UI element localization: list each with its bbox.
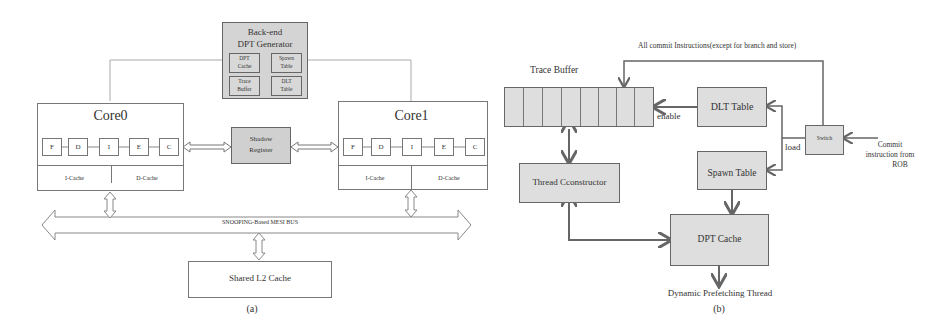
cell-line2: Table [272,63,301,69]
thread-constructor: Thread Cconstructor [519,163,620,203]
core0-icache: I-Cache [38,166,112,183]
core1-cache-row: I-Cache D-Cache [339,165,487,190]
cell-line1: Spawn [272,55,301,61]
core0-dcache: D-Cache [111,166,183,191]
dlt-table-label: DLT Table [698,101,766,112]
core1-stage-i: I [402,138,422,156]
cell-line1: Trace [230,78,259,84]
shared-l2-cache-label: Shared L2 Cache [189,273,331,283]
commit-instructions-label: All commit Instructions(except for branc… [638,41,796,50]
backend-dpt-generator: Back-end DPT Generator DPT Cache Spawn T… [222,22,308,99]
commit-rob-line1: Commit [860,140,920,149]
trace-buffer-cell [505,88,524,126]
switch-label: Switch [806,135,843,141]
core1-icache: I-Cache [339,166,412,190]
cell-line2: Cache [230,63,259,69]
core1-stage-e: E [434,138,454,156]
shadow-register-line2: Register [232,146,290,154]
cell-line2: Table [272,86,301,92]
core0-stage-f: F [42,138,62,156]
core0-stage-d: D [68,138,88,156]
core0-stage-c: C [159,138,179,156]
cell-line1: DPT [230,55,259,61]
caption-b: (b) [707,303,731,314]
load-label: load [785,142,801,152]
core1-dcache: D-Cache [411,166,487,190]
core0-stage-e: E [129,138,149,156]
trace-buffer [504,87,654,127]
commit-rob-line2: instruction from [845,150,935,159]
trace-buffer-cell [524,88,543,126]
core0-bus-arrow [104,192,116,218]
trace-buffer-label: Trace Buffer [530,65,578,75]
backend-cell-dlt-table: DLT Table [271,76,302,96]
shadow-register-line1: Shadow [232,135,290,143]
dynamic-prefetching-thread-label: Dynamic Prefetching Thread [656,288,784,298]
backend-cell-trace-buffer: Trace Buffer [229,76,260,96]
caption-a: (a) [240,303,264,314]
trace-buffer-cell [581,88,599,126]
core0-cache-row: I-Cache D-Cache [38,165,183,191]
core1-stage-d: D [371,138,391,156]
dpt-cache: DPT Cache [670,214,769,266]
cell-line1: DLT [272,78,301,84]
core0-shadow-arrow [183,142,231,152]
switch: Switch [805,125,844,155]
core0-title: Core0 [38,108,183,124]
spawn-table: Spawn Table [697,151,767,190]
core1: Core1 F D I E C I-Cache D-Cache [338,101,488,190]
trace-buffer-cell [543,88,562,126]
bus-label: SNOOPING-Based MESI BUS [200,219,320,225]
enable-label: enable [657,111,680,121]
core1-stage-c: C [465,138,485,156]
backend-title-line2: DPT Generator [223,39,307,49]
core1-stage-f: F [343,138,363,156]
trace-buffer-cell [599,88,617,126]
trace-buffer-cell [617,88,635,126]
bus-l2-arrow [253,233,265,260]
shadow-core1-arrow [291,142,338,152]
backend-cell-spawn-table: Spawn Table [271,53,302,73]
commit-rob-line3: ROB [870,160,930,169]
core1-bus-arrow [405,190,417,217]
core0: Core0 F D I E C I-Cache D-Cache [37,103,184,191]
backend-cell-dpt-cache: DPT Cache [229,53,260,73]
shared-l2-cache: Shared L2 Cache [188,261,332,298]
cell-line2: Buffer [230,86,259,92]
shadow-register: Shadow Register [231,127,291,164]
dlt-table: DLT Table [697,87,767,127]
core0-stage-i: I [99,138,119,156]
thread-constructor-label: Thread Cconstructor [520,177,619,187]
backend-title-line1: Back-end [223,27,307,37]
core1-title: Core1 [339,108,484,124]
trace-buffer-cell [562,88,581,126]
spawn-table-label: Spawn Table [698,168,766,178]
dpt-cache-label: DPT Cache [671,234,768,244]
